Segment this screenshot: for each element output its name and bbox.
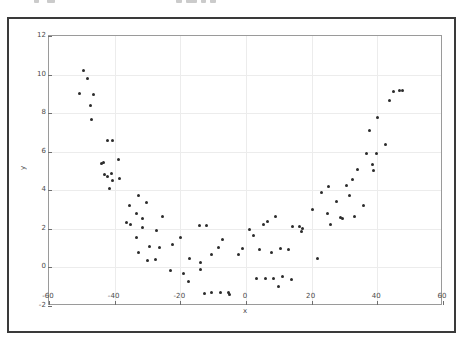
scatter-point	[353, 215, 356, 218]
y-tick	[48, 36, 52, 37]
x-tick	[180, 301, 181, 305]
figure-frame: x y -60-40-200204060-2024681012	[7, 17, 456, 333]
scatter-point	[279, 247, 282, 250]
scatter-point	[320, 191, 323, 194]
scatter-point	[188, 257, 191, 260]
y-tick-label: -2	[35, 301, 46, 309]
scatter-point	[221, 238, 224, 241]
scatter-point	[252, 234, 255, 237]
scatter-point	[351, 178, 354, 181]
scatter-point	[182, 272, 185, 275]
scatter-point	[262, 223, 265, 226]
scatter-point	[210, 291, 213, 294]
x-tick-label: -60	[42, 292, 54, 300]
scatter-point	[92, 93, 95, 96]
y-tick-label: 12	[35, 31, 46, 39]
scatter-point	[125, 221, 128, 224]
x-tick	[443, 301, 444, 305]
scatter-point	[401, 89, 404, 92]
scatter-plot-axes	[48, 35, 442, 305]
y-gridline	[49, 113, 441, 114]
scatter-point	[272, 277, 275, 280]
scatter-point	[146, 259, 149, 262]
scatter-point	[110, 172, 113, 175]
x-tick	[312, 301, 313, 305]
scatter-point	[137, 251, 140, 254]
scatter-point	[135, 212, 138, 215]
x-gridline	[377, 36, 378, 304]
scatter-point	[78, 92, 81, 95]
scatter-point	[277, 285, 280, 288]
scatter-point	[203, 292, 206, 295]
scatter-point	[327, 185, 330, 188]
x-tick-label: 40	[372, 292, 381, 300]
x-tick	[115, 301, 116, 305]
x-gridline	[115, 36, 116, 304]
scatter-point	[228, 293, 231, 296]
scatter-point	[111, 139, 114, 142]
scatter-point	[137, 194, 140, 197]
scatter-point	[255, 277, 258, 280]
scatter-point	[158, 246, 161, 249]
cut-off-text-artifact	[0, 0, 464, 14]
scatter-point	[356, 168, 359, 171]
scatter-point	[326, 212, 329, 215]
y-gridline	[49, 152, 441, 153]
scatter-point	[316, 257, 319, 260]
y-tick-label: 6	[35, 147, 46, 155]
scatter-point	[199, 261, 202, 264]
scatter-point	[362, 204, 365, 207]
scatter-point	[345, 184, 348, 187]
scatter-point	[129, 223, 132, 226]
scatter-point	[161, 215, 164, 218]
scatter-point	[266, 220, 269, 223]
scatter-point	[148, 245, 151, 248]
scatter-point	[388, 99, 391, 102]
scatter-point	[248, 228, 251, 231]
scatter-point	[117, 158, 120, 161]
x-gridline	[312, 36, 313, 304]
scatter-point	[264, 277, 267, 280]
scatter-point	[169, 269, 172, 272]
scatter-point	[155, 229, 158, 232]
x-tick-label: -40	[108, 292, 120, 300]
scatter-point	[210, 253, 213, 256]
scatter-point	[82, 69, 85, 72]
scatter-point	[348, 194, 351, 197]
scatter-point	[179, 236, 182, 239]
scatter-point	[102, 161, 105, 164]
scatter-point	[187, 280, 190, 283]
scatter-point	[128, 204, 131, 207]
y-tick	[48, 267, 52, 268]
scatter-point	[118, 177, 121, 180]
y-tick-label: 8	[35, 108, 46, 116]
y-gridline	[49, 229, 441, 230]
y-tick-label: 10	[35, 70, 46, 78]
y-tick	[48, 113, 52, 114]
scatter-point	[90, 118, 93, 121]
scatter-point	[237, 253, 240, 256]
scatter-point	[108, 187, 111, 190]
scatter-point	[301, 227, 304, 230]
scatter-point	[371, 163, 374, 166]
scatter-point	[171, 243, 174, 246]
y-gridline	[49, 75, 441, 76]
x-tick-label: -20	[173, 292, 185, 300]
scatter-point	[274, 215, 277, 218]
y-tick	[48, 75, 52, 76]
scatter-point	[89, 104, 92, 107]
scatter-point	[241, 247, 244, 250]
x-tick-label: 20	[306, 292, 315, 300]
scatter-point	[86, 77, 89, 80]
scatter-point	[372, 169, 375, 172]
scatter-point	[199, 268, 202, 271]
x-gridline	[180, 36, 181, 304]
x-tick-label: 0	[243, 292, 248, 300]
scatter-point	[368, 129, 371, 132]
scatter-point	[219, 291, 222, 294]
scatter-point	[106, 175, 109, 178]
scatter-point	[335, 200, 338, 203]
scatter-point	[270, 251, 273, 254]
scatter-point	[217, 246, 220, 249]
scatter-point	[376, 116, 379, 119]
